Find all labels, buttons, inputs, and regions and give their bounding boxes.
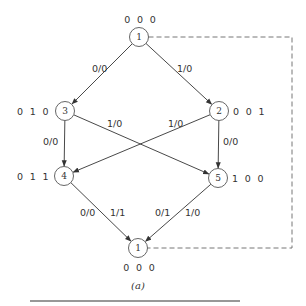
state-code: 0 1 0 — [17, 106, 48, 117]
state-code: 0 0 0 — [123, 262, 154, 273]
state-node-n4: 4 — [55, 167, 74, 186]
node-label: 3 — [62, 106, 68, 116]
state-diagram: 132451 0/01/00/01/01/00/00/01/10/11/00 0… — [0, 0, 306, 306]
node-label: 4 — [61, 171, 67, 181]
edge-label: 1/1 — [110, 207, 125, 218]
state-code: 0 0 1 — [233, 106, 264, 117]
edge-label: 1/0 — [177, 63, 192, 74]
state-node-top1: 1 — [130, 28, 149, 47]
state-code: 0 0 0 — [124, 14, 155, 25]
state-code: 0 1 1 — [17, 171, 48, 182]
edge-label: 0/0 — [223, 136, 238, 147]
edge-n2-n5 — [218, 120, 219, 168]
node-label: 1 — [136, 32, 142, 42]
state-node-n5: 5 — [209, 169, 228, 188]
edge-label: 1/0 — [168, 118, 183, 129]
node-label: 5 — [215, 173, 221, 183]
edge-n3-n4 — [64, 120, 65, 166]
edge-label: 0/0 — [43, 136, 58, 147]
state-node-n3: 3 — [56, 102, 75, 121]
edge-label: 1/0 — [107, 118, 122, 129]
edge-label: 0/0 — [92, 63, 107, 74]
state-node-n2: 2 — [210, 102, 229, 121]
edge-label: 1/0 — [185, 207, 200, 218]
figure-caption: (a) — [131, 280, 145, 291]
nodes-layer: 132451 — [55, 28, 229, 258]
state-code: 1 0 0 — [232, 173, 263, 184]
node-label: 2 — [216, 106, 222, 116]
edge-label: 0/0 — [80, 207, 95, 218]
state-node-bot1: 1 — [129, 239, 148, 258]
node-label: 1 — [135, 243, 141, 253]
edge-label: 0/1 — [155, 207, 170, 218]
